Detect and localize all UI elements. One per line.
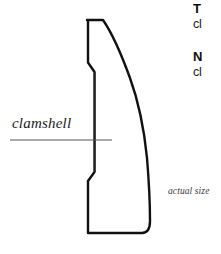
scale-note: actual size [168,186,209,196]
side-body-1: cl [193,16,221,32]
callout-label-clamshell: clamshell [12,115,71,132]
clamshell-profile-outline [87,20,150,233]
side-text-block-1: T cl [193,1,221,32]
side-heading-2: N [193,49,221,64]
figure-canvas: clamshell actual size T cl N cl [0,0,221,254]
side-body-2: cl [193,64,221,80]
side-text-block-2: N cl [193,49,221,80]
side-heading-1: T [193,1,221,16]
